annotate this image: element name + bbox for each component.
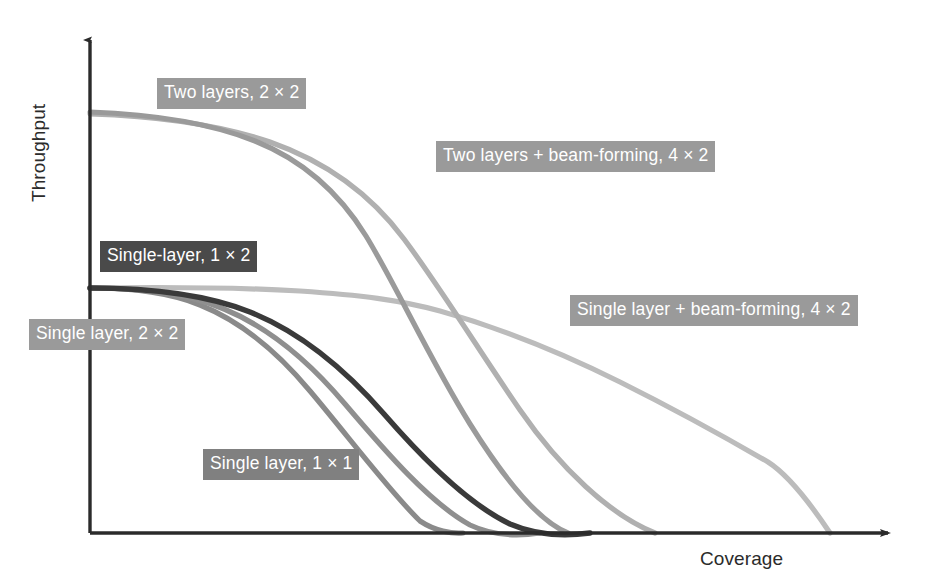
chart-canvas: Throughput Coverage Two layers, 2 × 2 Tw… [0,0,940,588]
series-label-single-layer-2x2: Single layer, 2 × 2 [29,319,185,350]
y-axis-title: Throughput [28,104,50,202]
series-label-single-layer-1x2: Single-layer, 1 × 2 [100,241,257,272]
series-label-two-layers-2x2: Two layers, 2 × 2 [157,78,306,109]
series-label-single-layer-bf-4x2: Single layer + beam-forming, 4 × 2 [570,295,858,326]
x-axis-title: Coverage [700,548,783,570]
series-label-single-layer-1x1: Single layer, 1 × 1 [203,449,359,480]
series-label-two-layers-bf-4x2: Two layers + beam-forming, 4 × 2 [436,141,715,172]
throughput-coverage-plot [0,0,940,588]
